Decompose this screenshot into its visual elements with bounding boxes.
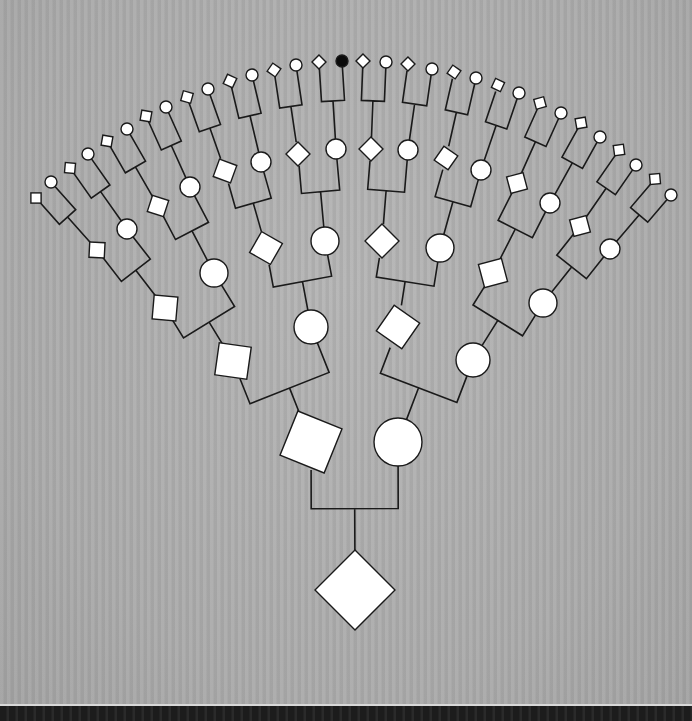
parent-link-bracket [555, 128, 597, 194]
unknown-sex-diamond-icon [491, 78, 504, 91]
unknown-sex-diamond-icon [286, 142, 310, 166]
parent-link-bracket [473, 285, 536, 346]
male-square-icon [280, 411, 342, 473]
parent-link-bracket [275, 71, 302, 142]
pedigree-nodes [31, 54, 677, 630]
female-circle-icon [290, 59, 302, 71]
female-circle-icon [326, 139, 346, 159]
unknown-sex-diamond-icon [315, 550, 395, 630]
parent-link-bracket [368, 160, 408, 224]
parent-link-bracket [269, 255, 332, 310]
parent-link-bracket [380, 348, 467, 420]
unknown-sex-diamond-icon [376, 305, 419, 348]
female-circle-icon [117, 219, 137, 239]
female-circle-icon [380, 56, 392, 68]
affected-female-circle-icon [336, 55, 348, 67]
male-square-icon [575, 117, 587, 129]
parent-link-bracket [240, 343, 329, 416]
male-square-icon [89, 242, 105, 258]
female-circle-icon [294, 310, 328, 344]
male-square-icon [223, 74, 237, 88]
parent-link-bracket [617, 184, 668, 242]
unknown-sex-diamond-icon [356, 54, 370, 68]
male-square-icon [181, 91, 193, 103]
female-circle-icon [121, 123, 133, 135]
unknown-sex-diamond-icon [250, 232, 283, 265]
parent-link-bracket [403, 71, 432, 140]
female-circle-icon [600, 239, 620, 259]
male-square-icon [147, 195, 168, 216]
female-circle-icon [200, 259, 228, 287]
parent-link-bracket [74, 159, 122, 221]
female-circle-icon [529, 289, 557, 317]
pedigree-fan-chart [0, 0, 692, 721]
male-square-icon [101, 135, 113, 147]
parent-link-bracket [189, 95, 221, 159]
male-square-icon [507, 173, 528, 194]
female-circle-icon [555, 107, 567, 119]
male-square-icon [31, 193, 41, 203]
parent-link-bracket [149, 113, 186, 178]
parent-link-bracket [319, 67, 344, 139]
unknown-sex-diamond-icon [359, 137, 383, 161]
female-circle-icon [160, 101, 172, 113]
parent-link-bracket [484, 92, 517, 161]
male-square-icon [570, 216, 591, 237]
parent-link-bracket [103, 237, 157, 297]
parent-link-bracket [172, 285, 234, 345]
female-circle-icon [45, 176, 57, 188]
female-circle-icon [426, 234, 454, 262]
unknown-sex-diamond-icon [365, 224, 399, 258]
parent-link-bracket [435, 170, 478, 235]
parent-link-bracket [311, 466, 398, 550]
male-square-icon [152, 295, 178, 321]
female-circle-icon [251, 152, 271, 172]
parent-link-bracket [110, 134, 153, 197]
parent-link-bracket [361, 68, 385, 137]
male-square-icon [140, 110, 152, 122]
female-circle-icon [470, 72, 482, 84]
female-circle-icon [665, 189, 677, 201]
female-circle-icon [311, 227, 339, 255]
pedigree-links [40, 67, 667, 550]
female-circle-icon [246, 69, 258, 81]
female-circle-icon [594, 131, 606, 143]
male-square-icon [649, 173, 660, 184]
female-circle-icon [630, 159, 642, 171]
unknown-sex-diamond-icon [434, 146, 458, 170]
parent-link-bracket [445, 79, 474, 147]
male-square-icon [478, 258, 507, 287]
female-circle-icon [426, 63, 438, 75]
female-circle-icon [540, 193, 560, 213]
female-circle-icon [398, 140, 418, 160]
female-circle-icon [374, 418, 422, 466]
parent-link-bracket [231, 81, 261, 153]
female-circle-icon [180, 177, 200, 197]
male-square-icon [215, 343, 251, 379]
parent-link-bracket [586, 155, 633, 218]
unknown-sex-diamond-icon [447, 65, 461, 79]
female-circle-icon [471, 160, 491, 180]
parent-link-bracket [552, 234, 604, 292]
female-circle-icon [513, 87, 525, 99]
unknown-sex-diamond-icon [312, 55, 326, 69]
parent-link-bracket [521, 109, 559, 174]
parent-link-bracket [498, 192, 545, 261]
female-circle-icon [456, 343, 490, 377]
parent-link-bracket [40, 187, 91, 244]
female-circle-icon [82, 148, 94, 160]
parent-link-bracket [163, 196, 209, 261]
male-square-icon [534, 97, 546, 109]
parent-link-bracket [229, 172, 272, 232]
unknown-sex-diamond-icon [213, 159, 237, 183]
male-square-icon [613, 144, 625, 156]
parent-link-bracket [376, 258, 438, 306]
female-circle-icon [202, 83, 214, 95]
unknown-sex-diamond-icon [267, 63, 281, 77]
unknown-sex-diamond-icon [401, 57, 415, 71]
male-square-icon [64, 162, 75, 173]
parent-link-bracket [299, 159, 340, 227]
